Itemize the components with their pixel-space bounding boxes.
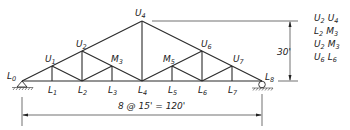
member-U1-L2 <box>52 66 82 81</box>
member-U7-L6 <box>202 66 232 81</box>
member-list: U2U4 L2M3 U2M3 U6L6 <box>314 13 340 64</box>
label-U7: U7 <box>233 54 245 66</box>
truss-members <box>22 21 262 81</box>
label-U2: U2 <box>76 39 87 51</box>
label-L5: L5 <box>168 85 177 97</box>
label-U4: U4 <box>135 8 146 20</box>
member-L6-M5 <box>172 66 202 81</box>
label-L8: L8 <box>265 72 274 84</box>
label-U1: U1 <box>45 54 56 66</box>
height-dimension-label: 30' <box>277 47 291 57</box>
span-dimension-label: 8 @ 15' = 120' <box>118 101 185 111</box>
label-L0: L0 <box>7 71 16 83</box>
member-list-row-4: U6L6 <box>314 52 337 64</box>
member-L2-M3 <box>82 66 112 81</box>
height-dimension: 30' <box>152 21 298 81</box>
member-list-row-2: L2M3 <box>314 26 338 38</box>
member-list-row-1: U2U4 <box>314 13 338 25</box>
label-L3: L3 <box>108 85 117 97</box>
label-L6: L6 <box>198 85 207 97</box>
label-L7: L7 <box>228 85 238 97</box>
label-L2: L2 <box>78 85 87 97</box>
label-L4: L4 <box>138 85 147 97</box>
label-M5: M5 <box>163 54 175 66</box>
truss-diagram: L0 L1 L2 L3 L4 L5 L6 L7 L8 U1 U2 M3 U4 M… <box>0 0 350 130</box>
member-list-row-3: U2M3 <box>314 39 340 51</box>
span-dimension: 8 @ 15' = 120' <box>22 94 262 126</box>
label-M3: M3 <box>111 54 123 66</box>
label-U6: U6 <box>201 39 212 51</box>
label-L1: L1 <box>48 85 57 97</box>
